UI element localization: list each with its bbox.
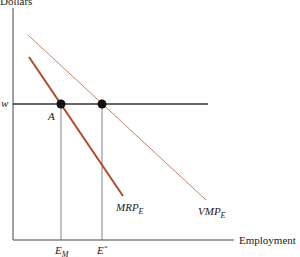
y-axis-label: Dollars — [0, 0, 32, 7]
tick-estar-sup: * — [104, 244, 108, 252]
point-a-label: A — [48, 111, 55, 122]
tick-em-main: E — [55, 244, 62, 256]
tick-estar-main: E — [97, 244, 104, 256]
point-a-marker — [57, 100, 66, 109]
mrp-label-main: MRP — [116, 201, 139, 213]
tick-em: EM — [55, 245, 68, 257]
mrp-label-sub: E — [139, 207, 144, 216]
mrp-curve — [29, 57, 123, 196]
vmp-label-sub: E — [221, 211, 226, 220]
vmp-label: VMPE — [198, 206, 226, 220]
diagram-canvas — [0, 0, 300, 257]
vmp-label-main: VMP — [198, 205, 221, 217]
mrp-label: MRPE — [116, 202, 144, 216]
point-estar-marker — [98, 100, 107, 109]
wage-label: w — [1, 98, 8, 109]
tick-em-sub: M — [62, 250, 69, 257]
x-axis-label: Employment — [239, 235, 296, 246]
tick-estar: E* — [97, 245, 107, 256]
